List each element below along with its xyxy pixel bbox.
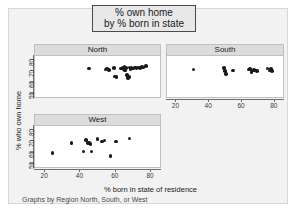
data-point <box>127 75 131 79</box>
graph-note: Graphs by Region North, South, or West <box>22 196 148 203</box>
data-point <box>51 151 55 155</box>
y-tick-label-north-70: 70 <box>29 70 36 77</box>
panel-west: West <box>34 114 161 168</box>
data-point <box>270 69 274 73</box>
data-point <box>144 64 148 68</box>
data-point <box>109 154 113 158</box>
panel-south-title: South <box>215 46 236 54</box>
data-point <box>89 142 93 146</box>
panel-west-title: West <box>88 116 106 124</box>
data-point <box>70 141 74 145</box>
x-tick-label-west-20: 20 <box>41 173 48 180</box>
panel-west-plot-area <box>34 125 161 168</box>
y-tick-label-north-50: 50 <box>29 92 36 99</box>
y-tick-label-west-80: 80 <box>29 128 36 135</box>
y-tick-label-west-60: 60 <box>29 151 36 158</box>
chart-title-box: % own home by % born in state <box>92 5 196 32</box>
x-tick-label-west-60: 60 <box>111 173 118 180</box>
data-point <box>103 139 107 143</box>
x-tick-label-west-40: 40 <box>76 173 83 180</box>
y-tick-label-west-70: 70 <box>29 140 36 147</box>
chart-title-line-1: % own home <box>115 8 173 19</box>
panel-south-plot-area <box>166 55 284 98</box>
x-tick-label-south-40: 40 <box>205 103 212 110</box>
x-axis-title: % born in state of residence <box>104 185 197 194</box>
panel-north-plot-area <box>34 55 161 98</box>
data-point <box>192 68 196 72</box>
x-tick-label-south-80: 80 <box>270 103 277 110</box>
panel-south: South <box>166 44 284 98</box>
data-point <box>112 66 116 70</box>
data-point <box>255 69 259 73</box>
data-point <box>107 68 111 72</box>
y-tick-label-north-60: 60 <box>29 81 36 88</box>
panel-north-header: North <box>34 44 161 55</box>
data-point <box>115 75 119 79</box>
chart-screenshot: % own home by % born in state North Sout… <box>0 0 296 212</box>
data-point <box>224 72 228 76</box>
panel-north: North <box>34 44 161 98</box>
x-axis-line-south <box>166 99 284 100</box>
y-tick-label-north-80: 80 <box>29 58 36 65</box>
x-tick-label-south-60: 60 <box>237 103 244 110</box>
panel-south-header: South <box>166 44 284 55</box>
y-axis-title: % who own home <box>14 91 23 150</box>
data-point <box>128 137 132 141</box>
panel-west-header: West <box>34 114 161 125</box>
panel-north-title: North <box>88 46 108 54</box>
data-point <box>231 69 235 73</box>
data-point <box>87 67 91 71</box>
x-tick-label-west-80: 80 <box>146 173 153 180</box>
chart-title-line-2: by % born in state <box>104 19 184 30</box>
data-point <box>114 140 118 144</box>
data-point <box>90 150 94 154</box>
data-point <box>82 150 86 154</box>
x-axis-line-west <box>34 169 161 170</box>
data-point <box>96 137 100 141</box>
x-tick-label-south-20: 20 <box>172 103 179 110</box>
